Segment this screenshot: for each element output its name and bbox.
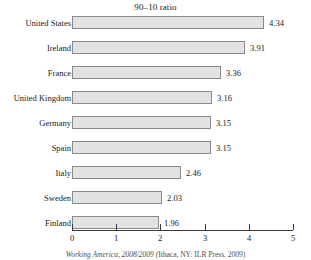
source-title: Working America, 2008/2009 [66, 250, 154, 259]
bar-row: France3.36 [0, 66, 311, 79]
bar [72, 91, 212, 104]
bar [72, 16, 264, 29]
x-axis-tick-label: 1 [106, 233, 126, 243]
category-label: Ireland [0, 43, 71, 53]
x-axis-line [72, 230, 293, 231]
bar-value-label: 4.34 [269, 18, 284, 28]
x-axis-tick [160, 224, 161, 230]
x-axis-tick-label: 0 [62, 233, 82, 243]
bar [72, 191, 162, 204]
category-label: France [0, 68, 71, 78]
category-label: Italy [0, 168, 71, 178]
bar-value-label: 3.15 [216, 143, 231, 153]
bar-value-label: 2.46 [186, 168, 201, 178]
x-axis-tick [116, 224, 117, 230]
x-axis: 012345 [0, 224, 311, 246]
bar-row: Sweden2.03 [0, 191, 311, 204]
bar-value-label: 3.15 [216, 118, 231, 128]
bar-value-label: 3.91 [250, 43, 265, 53]
bar-value-label: 3.36 [226, 68, 241, 78]
bar-value-label: 3.16 [217, 93, 232, 103]
bar-row: United States4.34 [0, 16, 311, 29]
plot-area: United States4.34Ireland3.91France3.36Un… [0, 14, 311, 224]
bar [72, 166, 181, 179]
bar [72, 41, 245, 54]
bar [72, 141, 211, 154]
x-axis-tick-label: 3 [195, 233, 215, 243]
x-axis-tick-label: 2 [150, 233, 170, 243]
category-label: United Kingdom [0, 93, 71, 103]
x-axis-tick [249, 224, 250, 230]
bar [72, 116, 211, 129]
bar-value-label: 2.03 [167, 193, 182, 203]
chart-title: 90–10 ratio [0, 2, 311, 12]
bar-row: Italy2.46 [0, 166, 311, 179]
category-label: Spain [0, 143, 71, 153]
category-label: Sweden [0, 193, 71, 203]
bar-row: Germany3.15 [0, 116, 311, 129]
x-axis-tick [205, 224, 206, 230]
bar [72, 66, 221, 79]
category-label: United States [0, 18, 71, 28]
x-axis-tick-label: 5 [283, 233, 303, 243]
bar-row: United Kingdom3.16 [0, 91, 311, 104]
bar-row: Ireland3.91 [0, 41, 311, 54]
bar-chart-figure: 90–10 ratio United States4.34Ireland3.91… [0, 0, 311, 260]
x-axis-tick [72, 224, 73, 230]
x-axis-tick [293, 224, 294, 230]
bar-row: Spain3.15 [0, 141, 311, 154]
source-caption: Working America, 2008/2009 (Ithaca, NY: … [0, 250, 311, 259]
x-axis-tick-label: 4 [239, 233, 259, 243]
source-publisher: (Ithaca, NY: ILR Press, 2009) [154, 250, 246, 259]
category-label: Germany [0, 118, 71, 128]
